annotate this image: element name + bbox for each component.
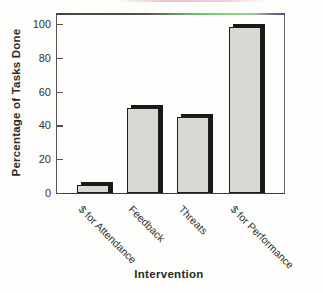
y-tick-0 xyxy=(57,193,63,194)
x-tick-label-feedback: Feedback xyxy=(127,203,168,244)
x-tick-label-for-performance: $ for Performance xyxy=(229,203,297,271)
y-tick-100 xyxy=(57,24,63,25)
y-tick-label-100: 100 xyxy=(20,18,51,31)
y-tick-60 xyxy=(57,92,63,93)
y-tick-40 xyxy=(57,125,63,126)
scan-artifact-line xyxy=(118,0,266,2)
plot-top-border xyxy=(56,13,285,15)
x-axis-title: Intervention xyxy=(109,268,229,280)
y-tick-label-80: 80 xyxy=(20,52,51,65)
y-tick-20 xyxy=(57,159,63,160)
bar-chart-figure: Percentage of Tasks Done Intervention 02… xyxy=(0,0,323,293)
y-tick-label-20: 20 xyxy=(20,153,51,166)
bar-for-performance xyxy=(229,27,261,193)
y-tick-label-60: 60 xyxy=(20,86,51,99)
y-tick-label-0: 0 xyxy=(20,187,51,200)
bar-threats xyxy=(177,117,209,193)
x-tick-label-threats: Threats xyxy=(177,203,211,237)
plot-area xyxy=(56,13,285,194)
y-tick-label-40: 40 xyxy=(20,119,51,132)
bar-feedback xyxy=(127,108,159,193)
y-tick-80 xyxy=(57,58,63,59)
bar-for-attendance xyxy=(77,185,109,193)
